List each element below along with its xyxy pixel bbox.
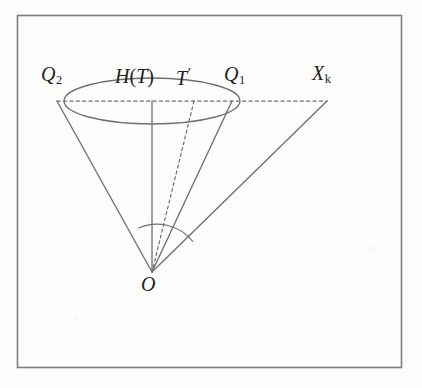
label-q2-subscript: 2 [55,73,62,87]
label-t-prime: T′ [176,66,191,88]
figure-root: Q2 H(T) T′ Q1 Xk O [0,0,422,388]
label-q1-subscript: 1 [238,73,245,87]
label-h-of-t: H(T) [115,66,154,86]
segment-q2-o [57,101,152,272]
label-q1: Q1 [224,64,245,87]
label-q2-letter: Q [41,63,55,85]
cone-diagram-svg [0,0,422,388]
dashed-segment-tprime-o [152,101,194,272]
label-xk-letter: X [312,62,324,84]
segment-xk-o [152,101,327,272]
label-t-prime-mark: ′ [187,65,191,81]
label-o-apex: O [141,274,155,294]
figure-border [18,16,402,368]
angle-arc-at-apex [139,224,193,241]
label-o-letter: O [141,273,155,295]
label-xk: Xk [312,63,331,86]
label-q2: Q2 [41,64,62,87]
label-t-letter: T [176,67,187,89]
segment-q1-o [152,101,232,272]
label-xk-subscript: k [324,72,331,86]
label-h-letter: H [115,65,129,87]
label-q1-letter: Q [224,63,238,85]
label-h-argument: T [136,65,147,87]
label-h-paren-close: ) [147,65,154,87]
